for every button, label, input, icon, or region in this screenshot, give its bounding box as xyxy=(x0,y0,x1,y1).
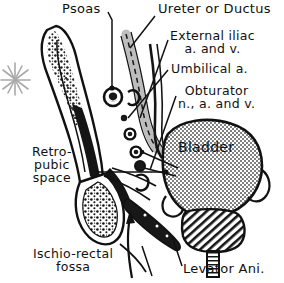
label-ischiorectal-fossa: Ischio-rectal fossa xyxy=(33,248,113,274)
anatomical-diagram-figure: Psoas Ureter or Ductus External iliac a.… xyxy=(0,0,284,283)
asterisk-marker-icon xyxy=(1,63,30,95)
label-ureter-or-ductus: Ureter or Ductus xyxy=(158,2,271,15)
ischiorectal-fossa-arrow xyxy=(126,210,135,278)
label-psoas: Psoas xyxy=(62,2,101,15)
label-levator-ani: Levator Ani. xyxy=(183,262,265,275)
label-umbilical-artery: Umbilical a. xyxy=(171,63,248,76)
label-retropubic-space: Retro- pubic space xyxy=(32,146,72,184)
bladder-organ xyxy=(163,120,270,217)
label-external-iliac: External iliac a. and v. xyxy=(170,30,255,56)
levator-ani-muscle xyxy=(124,199,180,250)
prostate-gland xyxy=(182,209,245,252)
label-obturator: Obturator n., a. and v. xyxy=(178,85,255,111)
label-bladder: Bladder xyxy=(178,140,234,154)
